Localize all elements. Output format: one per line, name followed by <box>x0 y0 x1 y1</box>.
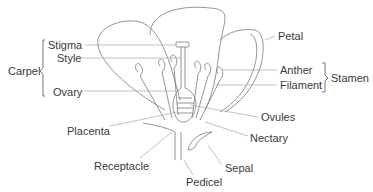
stigma-label: Stigma <box>48 39 82 51</box>
pedicel-label: Pedicel <box>186 176 222 188</box>
sepal-label: Sepal <box>225 162 253 174</box>
petal-right <box>220 29 263 112</box>
ovary-label: Ovary <box>53 86 82 98</box>
stamen-group-label: Stamen <box>331 72 369 84</box>
sepal-shape <box>188 132 212 150</box>
carpel-group-label: Carpel <box>8 65 40 77</box>
style-label: Style <box>57 52 81 64</box>
filament-label: Filament <box>280 79 322 91</box>
stamen-bracket <box>322 63 328 92</box>
anther-label: Anther <box>280 64 312 76</box>
ovules-label: Ovules <box>261 111 295 123</box>
nectary-label: Nectary <box>250 132 288 144</box>
style-shape <box>181 47 185 88</box>
placenta-label: Placenta <box>67 125 110 137</box>
receptacle-label: Receptacle <box>94 160 149 172</box>
petal-label: Petal <box>278 30 303 42</box>
petal-back <box>150 7 225 110</box>
flower-diagram: Carpel Stigma Style Ovary Petal Anther F… <box>0 0 373 192</box>
carpel-bracket <box>40 40 45 96</box>
stigma-shape <box>176 42 189 47</box>
